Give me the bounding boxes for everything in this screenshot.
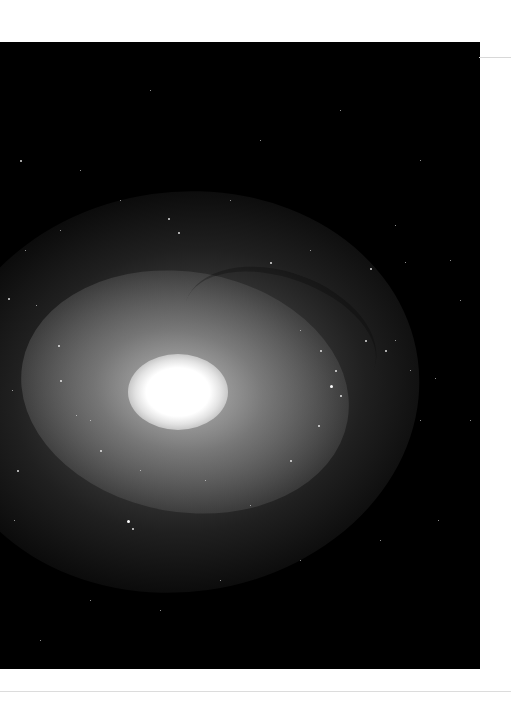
star xyxy=(300,330,301,331)
star xyxy=(20,160,22,162)
star xyxy=(150,90,151,91)
bottom-divider xyxy=(0,691,511,692)
star xyxy=(385,350,387,352)
star xyxy=(380,540,381,541)
star xyxy=(310,250,311,251)
star xyxy=(395,225,396,226)
star xyxy=(58,345,60,347)
star xyxy=(120,200,121,201)
star xyxy=(90,600,91,601)
star xyxy=(318,425,320,427)
star xyxy=(410,370,411,371)
star xyxy=(80,170,81,171)
star xyxy=(100,450,102,452)
star xyxy=(435,378,436,379)
star xyxy=(438,520,439,521)
star xyxy=(17,470,19,472)
star xyxy=(178,232,180,234)
star xyxy=(330,385,333,388)
star xyxy=(220,580,221,581)
star xyxy=(300,560,301,561)
star xyxy=(76,415,77,416)
star xyxy=(168,218,170,220)
star xyxy=(260,140,261,141)
star xyxy=(60,230,61,231)
star xyxy=(127,520,130,523)
star xyxy=(60,380,62,382)
star xyxy=(470,420,471,421)
star xyxy=(12,390,13,391)
star xyxy=(160,610,161,611)
star xyxy=(36,305,37,306)
galaxy-photo xyxy=(0,42,480,669)
star xyxy=(420,160,421,161)
star xyxy=(8,298,10,300)
star xyxy=(405,262,406,263)
star xyxy=(370,268,372,270)
star xyxy=(270,262,272,264)
galaxy-core xyxy=(128,354,228,430)
star xyxy=(14,520,15,521)
star xyxy=(40,640,41,641)
star xyxy=(250,505,251,506)
star xyxy=(230,200,231,201)
star xyxy=(450,260,451,261)
star xyxy=(340,110,341,111)
star xyxy=(365,340,367,342)
top-divider xyxy=(479,57,511,58)
star xyxy=(460,300,461,301)
star xyxy=(290,460,292,462)
star xyxy=(140,470,141,471)
star xyxy=(132,528,134,530)
star xyxy=(340,395,342,397)
star xyxy=(25,250,26,251)
star xyxy=(320,350,322,352)
star xyxy=(90,420,91,421)
star xyxy=(335,370,337,372)
star xyxy=(205,480,206,481)
star xyxy=(395,340,396,341)
star xyxy=(420,420,421,421)
